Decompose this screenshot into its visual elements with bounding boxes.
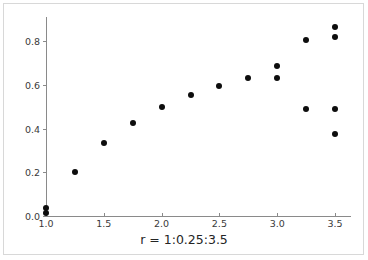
y-tick-mark — [43, 129, 47, 130]
x-tick-mark — [335, 213, 336, 217]
y-axis-line — [46, 17, 47, 217]
x-tick-mark — [277, 213, 278, 217]
y-tick-mark — [43, 172, 47, 173]
data-point — [332, 34, 338, 40]
x-axis-label: r = 1:0.25:3.5 — [0, 232, 368, 247]
x-tick-mark — [219, 213, 220, 217]
data-point — [101, 140, 107, 146]
y-tick-label: 0.4 — [14, 123, 40, 134]
data-point — [274, 63, 280, 69]
data-point — [274, 75, 280, 81]
x-tick-label: 1.5 — [89, 218, 119, 229]
x-tick-mark — [162, 213, 163, 217]
data-point — [216, 83, 222, 89]
data-point — [303, 37, 309, 43]
y-tick-label: 0.6 — [14, 79, 40, 90]
x-tick-label: 2.5 — [204, 218, 234, 229]
x-axis-line — [46, 216, 351, 217]
data-point — [72, 169, 78, 175]
data-point — [43, 205, 49, 211]
data-point — [303, 106, 309, 112]
scatter-plot-area: 0.00.20.40.60.8 1.01.52.02.53.03.5 — [0, 0, 368, 260]
x-tick-label: 3.0 — [262, 218, 292, 229]
data-point — [245, 75, 251, 81]
data-point — [332, 106, 338, 112]
screenshot-root: 0.00.20.40.60.8 1.01.52.02.53.03.5 r = 1… — [0, 0, 368, 260]
x-tick-mark — [104, 213, 105, 217]
y-tick-label: 0.8 — [14, 36, 40, 47]
data-point — [159, 104, 165, 110]
data-point — [332, 131, 338, 137]
data-point — [332, 24, 338, 30]
data-point — [188, 92, 194, 98]
x-tick-label: 1.0 — [31, 218, 61, 229]
y-tick-label: 0.2 — [14, 167, 40, 178]
x-tick-label: 2.0 — [147, 218, 177, 229]
y-tick-mark — [43, 41, 47, 42]
x-tick-label: 3.5 — [320, 218, 350, 229]
y-tick-mark — [43, 85, 47, 86]
data-point — [130, 120, 136, 126]
